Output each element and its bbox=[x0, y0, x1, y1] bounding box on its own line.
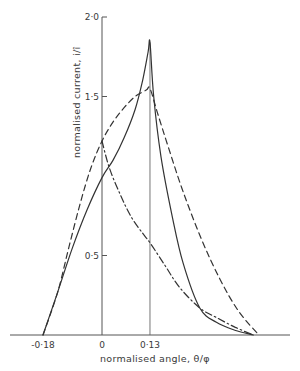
series-dash-dot-line bbox=[102, 141, 253, 335]
x-tick-label: -0·18 bbox=[31, 340, 55, 350]
y-tick-labels: 0·51·52·0 bbox=[85, 12, 107, 261]
line-chart: -0·1800·13 0·51·52·0 normalised angle, θ… bbox=[0, 0, 300, 371]
x-tick-labels: -0·1800·13 bbox=[31, 340, 160, 350]
x-tick-label: 0·13 bbox=[140, 340, 160, 350]
y-axis-label: normalised current, i/î bbox=[71, 46, 82, 158]
y-tick-label: 2·0 bbox=[85, 12, 100, 22]
y-tick-label: 0·5 bbox=[85, 251, 99, 261]
x-axis-label: normalised angle, θ/φ bbox=[100, 353, 210, 364]
y-tick-label: 1·5 bbox=[85, 92, 99, 102]
x-tick-label: 0 bbox=[99, 340, 105, 350]
